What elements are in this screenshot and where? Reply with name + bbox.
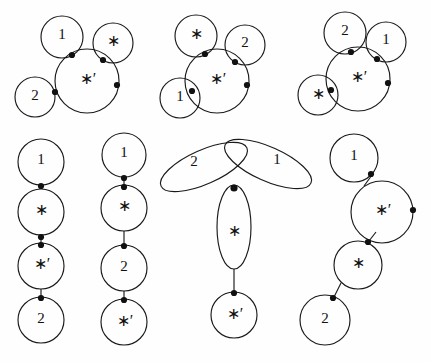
diagram-5-node-4	[121, 297, 127, 303]
diagram-5-node-1	[121, 175, 127, 181]
diagram-3-label-upper-left: 2	[341, 22, 349, 38]
diagram-1-center-label: ∗′	[80, 70, 97, 87]
diagram-5: 1 ∗ 2 ∗′	[101, 133, 147, 345]
diagram-4-label-3: ∗′	[34, 255, 51, 272]
diagram-4-label-4: 2	[37, 310, 45, 326]
diagram-6: 2 1 ∗ ∗′	[154, 129, 318, 338]
diagram-5-label-4: ∗′	[117, 312, 134, 329]
diagram-6-node-center	[230, 184, 237, 191]
diagram-4: 1 ∗ ∗′ 2	[18, 139, 64, 343]
diagram-3-node-free	[385, 80, 391, 86]
diagram-1-node-upper-left	[69, 52, 75, 58]
diagram-7: 1 ∗′ ∗ 2	[300, 134, 416, 345]
diagram-7-label-1: 1	[350, 147, 358, 163]
diagram-4-node-1	[38, 183, 44, 189]
diagram-3-node-upper-right	[374, 56, 380, 62]
diagram-3-label-lower-left: ∗	[312, 85, 325, 102]
diagram-7-node-2	[365, 239, 371, 245]
diagram-3-label-upper-right: 1	[382, 31, 390, 47]
diagram-4-node-2	[38, 234, 44, 240]
diagram-5-label-1: 1	[120, 144, 128, 160]
diagram-1: ∗′ 1 ∗ 2	[15, 16, 133, 117]
diagram-4-label-1: 1	[37, 151, 45, 167]
diagram-6-tail-label: ∗′	[227, 305, 244, 322]
diagram-1-label-upper-left: 1	[58, 26, 66, 42]
diagram-3-node-lower-left	[328, 87, 334, 93]
diagram-7-label-3: ∗	[352, 254, 365, 271]
diagram-6-label-lower: ∗	[228, 222, 241, 239]
diagram-7-label-2: ∗′	[375, 201, 392, 218]
diagram-5-label-2: ∗	[118, 197, 131, 214]
diagram-7-node-3	[330, 295, 336, 301]
diagram-7-node-1	[368, 171, 374, 177]
diagram-5-node-2	[121, 184, 127, 190]
diagram-2-node-free	[244, 82, 250, 88]
diagram-7-label-4: 2	[321, 310, 329, 326]
diagram-2-node-lower-left	[189, 88, 195, 94]
diagram-2: ∗′ ∗ 2 1	[160, 15, 265, 118]
diagram-1-node-lower-left	[52, 89, 58, 95]
diagram-2-center-label: ∗′	[210, 70, 227, 87]
diagram-figure: ∗′ 1 ∗ 2 ∗′ ∗ 2 1	[0, 0, 431, 363]
figure-canvas: ∗′ 1 ∗ 2 ∗′ ∗ 2 1	[0, 0, 431, 363]
diagram-7-edge-3	[334, 283, 341, 297]
diagram-1-label-lower-left: 2	[31, 87, 39, 103]
diagram-2-label-upper-left: ∗	[190, 25, 203, 42]
diagram-6-node-tail	[231, 290, 237, 296]
diagram-3-center-label: ∗′	[351, 68, 368, 85]
diagram-4-label-2: ∗	[35, 201, 48, 218]
diagram-1-node-upper-right	[100, 57, 106, 63]
diagram-7-node-free	[410, 207, 416, 213]
diagram-2-node-upper-left	[202, 51, 208, 57]
diagram-3-node-upper-left	[348, 49, 354, 55]
diagram-2-label-lower-left: 1	[176, 88, 184, 104]
diagram-4-node-3	[38, 242, 44, 248]
diagram-4-node-4	[38, 295, 44, 301]
diagram-6-label-upper-right: 1	[273, 151, 281, 167]
diagram-6-label-upper-left: 2	[190, 153, 198, 169]
diagram-5-label-3: 2	[120, 258, 128, 274]
diagram-1-label-upper-right: ∗	[107, 32, 120, 49]
diagram-5-node-3	[121, 243, 127, 249]
diagram-3: ∗′ 2 1 ∗	[298, 12, 406, 115]
diagram-2-node-upper-right	[232, 59, 238, 65]
diagram-1-node-free	[114, 82, 120, 88]
diagram-7-edge-2	[369, 232, 376, 241]
diagram-2-label-upper-right: 2	[241, 34, 249, 50]
